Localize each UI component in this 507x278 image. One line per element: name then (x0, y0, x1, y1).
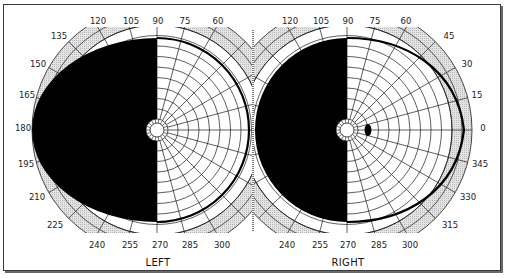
meridian-label: 240 (89, 240, 105, 250)
meridian-label: 120 (282, 16, 298, 26)
fovea-center (340, 123, 354, 137)
meridian-label: 45 (444, 31, 455, 41)
meridian-label: 255 (122, 240, 138, 250)
right-eye-label: RIGHT (332, 257, 365, 268)
meridian-label: 90 (343, 16, 354, 26)
left-eye-label: LEFT (146, 257, 171, 268)
meridian-label: 105 (313, 16, 329, 26)
meridian-label: 90 (153, 16, 164, 26)
meridian-label: 300 (214, 240, 230, 250)
meridian-label: 270 (152, 240, 168, 250)
meridian-label: 285 (182, 240, 198, 250)
meridian-label: 75 (370, 16, 381, 26)
right-eye-chart (222, 5, 472, 255)
meridian-label: 0 (480, 123, 485, 133)
meridian-label: 195 (18, 159, 34, 169)
meridian-label: 30 (462, 59, 473, 69)
meridian-label: 75 (180, 16, 191, 26)
fovea-center (150, 123, 164, 137)
meridian-label: 270 (340, 240, 356, 250)
meridian-label: 165 (19, 90, 35, 100)
meridian-label: 345 (472, 159, 488, 169)
meridian-label: 60 (213, 16, 224, 26)
meridian-label: 60 (401, 16, 412, 26)
meridian-label: 240 (279, 240, 295, 250)
meridian-label: 180 (15, 123, 31, 133)
visual-field-diagram: 1201059075601351501651801952102252402552… (0, 0, 507, 278)
meridian-label: 315 (442, 220, 458, 230)
meridian-label: 135 (51, 31, 67, 41)
meridian-label: 255 (312, 240, 328, 250)
meridian-label: 330 (460, 192, 476, 202)
left-eye-chart (32, 5, 282, 255)
meridian-label: 210 (29, 192, 45, 202)
meridian-label: 105 (123, 16, 139, 26)
blind-spot (365, 124, 372, 136)
meridian-label: 225 (47, 220, 63, 230)
meridian-label: 300 (402, 240, 418, 250)
meridian-label: 120 (90, 16, 106, 26)
meridian-label: 150 (30, 59, 46, 69)
meridian-label: 285 (371, 240, 387, 250)
meridian-label: 15 (472, 90, 483, 100)
